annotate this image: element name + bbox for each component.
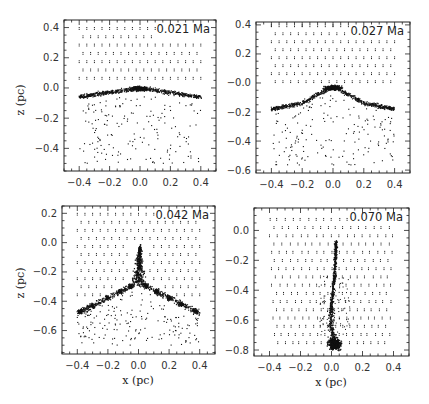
x-tick-label: −0.2	[288, 362, 312, 373]
y-axis-label-bottom: z (pc)	[14, 267, 27, 298]
y-tick-label: −0.6	[227, 165, 251, 176]
x-tick-label: 0.0	[325, 179, 341, 190]
time-label: 0.070 Ma	[349, 210, 403, 224]
particles	[271, 24, 395, 165]
panel-top-left: −0.4−0.20.00.20.40.40.20.0−0.2−0.40.021 …	[35, 20, 216, 188]
x-tick-label: −0.2	[96, 360, 120, 371]
panel-bottom-left: −0.4−0.20.00.20.40.20.0−0.2−0.4−0.60.042…	[33, 206, 215, 371]
x-tick-label: 0.0	[131, 360, 147, 371]
y-tick-label: 0.0	[233, 225, 249, 236]
time-label: 0.027 Ma	[350, 24, 404, 38]
y-tick-label: 0.0	[41, 237, 57, 248]
particles	[79, 27, 202, 164]
panel-bottom-right: −0.4−0.20.00.20.40.0−0.2−0.4−0.6−0.80.07…	[225, 208, 409, 373]
x-tick-label: −0.4	[65, 360, 89, 371]
particles	[269, 218, 393, 351]
x-tick-label: 0.4	[387, 179, 403, 190]
y-tick-label: 0.0	[43, 82, 59, 93]
x-tick-label: −0.2	[97, 177, 121, 188]
x-tick-label: 0.4	[193, 177, 209, 188]
y-tick-label: −0.2	[35, 113, 59, 124]
y-tick-label: 0.2	[235, 48, 251, 59]
x-tick-label: 0.4	[192, 360, 208, 371]
y-tick-label: −0.4	[225, 285, 249, 296]
y-tick-label: −0.2	[227, 107, 251, 118]
x-tick-label: 0.2	[162, 177, 178, 188]
figure-canvas: −0.4−0.20.00.20.40.40.20.0−0.2−0.40.021 …	[0, 0, 429, 404]
x-tick-label: 0.0	[324, 362, 340, 373]
y-tick-label: 0.4	[43, 22, 59, 33]
x-axis-label-left: x (pc)	[122, 374, 154, 387]
panel-top-right: −0.4−0.20.00.20.40.40.2−0.0−0.2−0.4−0.60…	[227, 19, 410, 190]
y-tick-label: −0.8	[225, 345, 249, 356]
x-tick-label: 0.4	[386, 362, 402, 373]
time-label: 0.021 Ma	[156, 22, 210, 36]
y-tick-label: −0.6	[225, 315, 249, 326]
particles	[77, 213, 201, 346]
y-tick-label: −0.4	[227, 136, 251, 147]
x-tick-label: 0.0	[132, 177, 148, 188]
y-tick-label: 0.2	[43, 52, 59, 63]
y-axis-label-top: z (pc)	[14, 84, 27, 115]
x-tick-label: −0.4	[67, 177, 91, 188]
x-tick-label: −0.4	[257, 362, 281, 373]
y-tick-label: 0.4	[235, 19, 251, 30]
y-tick-label: −0.2	[33, 266, 57, 277]
y-tick-label: −0.2	[225, 255, 249, 266]
x-tick-label: −0.4	[259, 179, 283, 190]
x-tick-label: 0.2	[161, 360, 177, 371]
y-tick-label: −0.4	[35, 143, 59, 154]
y-tick-label: 0.2	[41, 208, 57, 219]
x-tick-label: 0.2	[355, 362, 371, 373]
y-tick-label: −0.0	[227, 77, 251, 88]
time-label: 0.042 Ma	[155, 208, 209, 222]
y-tick-label: −0.4	[33, 296, 57, 307]
x-tick-label: −0.2	[290, 179, 314, 190]
y-tick-label: −0.6	[33, 325, 57, 336]
x-axis-label-right: x (pc)	[315, 376, 347, 389]
x-tick-label: 0.2	[356, 179, 372, 190]
